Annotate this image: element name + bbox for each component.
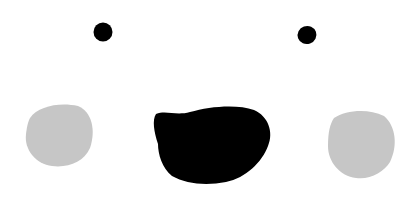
right-cheek	[328, 111, 395, 178]
mouth	[154, 106, 270, 184]
left-cheek	[26, 105, 93, 167]
right-eye	[295, 23, 319, 46]
left-eye	[94, 23, 113, 42]
